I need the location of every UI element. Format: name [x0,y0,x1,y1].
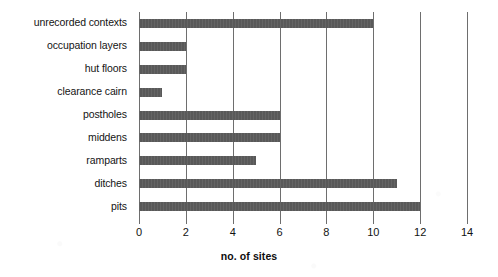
bar [139,179,397,188]
bar [139,42,186,51]
x-tick-label-12: 12 [405,226,435,238]
x-tick-label-10: 10 [358,226,388,238]
bar [139,88,162,97]
category-label: ditches [0,178,127,189]
bar [139,19,373,28]
gridline-12 [420,12,421,224]
bar [139,156,256,165]
category-label: postholes [0,109,127,120]
category-label: occupation layers [0,40,127,51]
gridline-14 [467,12,468,224]
category-label: hut floors [0,63,127,74]
bar [139,133,280,142]
x-tick-label-6: 6 [265,226,295,238]
bar [139,111,280,120]
gridline-10 [373,12,374,224]
category-axis-labels: unrecorded contextsoccupation layershut … [0,12,133,218]
x-axis-title: no. of sites [0,250,498,262]
x-tick-label-14: 14 [452,226,482,238]
gridline-8 [326,12,327,224]
category-label: middens [0,132,127,143]
x-tick-label-0: 0 [124,226,154,238]
bar [139,65,186,74]
bar-chart: unrecorded contextsoccupation layershut … [0,0,498,277]
bar [139,202,420,211]
category-label: unrecorded contexts [0,17,127,28]
plot-area [139,12,467,218]
x-tick-label-8: 8 [311,226,341,238]
gridline-6 [280,12,281,224]
category-label: ramparts [0,155,127,166]
x-tick-label-4: 4 [218,226,248,238]
x-tick-label-2: 2 [171,226,201,238]
category-label: clearance cairn [0,86,127,97]
category-label: pits [0,201,127,212]
